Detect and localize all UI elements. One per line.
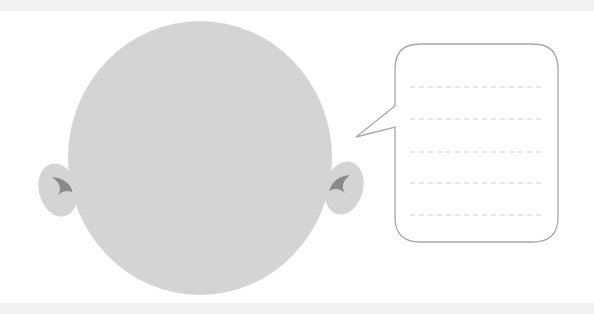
head: [68, 21, 332, 295]
illustration: [0, 0, 594, 314]
speech-bubble: [356, 44, 558, 242]
